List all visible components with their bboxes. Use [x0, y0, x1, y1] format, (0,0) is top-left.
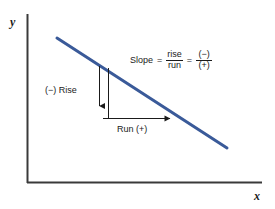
- fraction-numerator-rise: rise: [166, 50, 183, 60]
- y-axis-label: y: [10, 16, 15, 28]
- slope-term: Slope: [128, 55, 155, 65]
- slope-equation: Slope = rise run = (−) (+): [128, 50, 214, 71]
- rise-over-run-fraction: rise run: [164, 50, 185, 71]
- slope-diagram-figure: y x (−) Rise Run (+) Slope = rise run = …: [0, 0, 275, 209]
- x-axis-label: x: [254, 190, 260, 202]
- sign-fraction: (−) (+): [194, 50, 214, 71]
- fraction-numerator-negative: (−): [197, 50, 210, 60]
- rise-label: (−) Rise: [45, 86, 77, 95]
- diagram-canvas: [0, 0, 275, 209]
- run-label: Run (+): [117, 125, 147, 134]
- fraction-denominator-positive: (+): [197, 61, 210, 71]
- equals-sign-1: =: [155, 55, 164, 65]
- equals-sign-2: =: [185, 55, 194, 65]
- fraction-denominator-run: run: [167, 61, 182, 71]
